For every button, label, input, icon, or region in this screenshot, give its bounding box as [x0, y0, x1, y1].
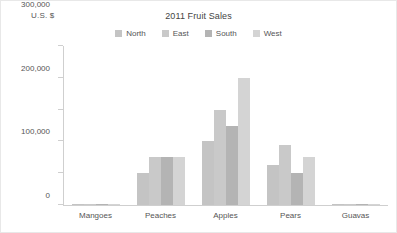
- legend-label: South: [216, 29, 237, 38]
- y-axis-tick: 400,000: [58, 77, 63, 78]
- legend-swatch-icon: [253, 30, 260, 37]
- bar[interactable]: [202, 141, 214, 205]
- bar[interactable]: [303, 157, 315, 205]
- bar[interactable]: [368, 204, 380, 205]
- y-axis-tick-label: 200,000: [21, 63, 50, 72]
- x-axis-tick-label: Apples: [213, 211, 237, 220]
- chart-legend: NorthEastSouthWest: [1, 29, 396, 38]
- bar[interactable]: [72, 204, 84, 205]
- legend-entry[interactable]: North: [115, 29, 146, 38]
- bar[interactable]: [267, 165, 279, 205]
- bar[interactable]: [149, 157, 161, 205]
- bar[interactable]: [173, 157, 185, 205]
- fruit-sales-bar-chart: U.S. $ 2011 Fruit Sales NorthEastSouthWe…: [0, 0, 397, 233]
- bar[interactable]: [238, 78, 250, 205]
- y-axis-tick: 200,000: [58, 140, 63, 141]
- legend-entry[interactable]: South: [205, 29, 237, 38]
- bar-group: Guavas: [332, 204, 380, 205]
- bar[interactable]: [96, 204, 108, 205]
- legend-swatch-icon: [162, 30, 169, 37]
- y-axis-tick-label: 300,000: [21, 0, 50, 9]
- x-axis-tick-label: Peaches: [145, 211, 176, 220]
- legend-swatch-icon: [115, 30, 122, 37]
- legend-entry[interactable]: West: [253, 29, 282, 38]
- y-axis-tick: 100,000: [58, 172, 63, 173]
- y-axis-tick: 300,000: [58, 109, 63, 110]
- plot-area: 0100,000200,000300,000400,000500,000Mang…: [63, 46, 388, 206]
- y-axis-tick-label: 100,000: [21, 127, 50, 136]
- x-axis-tick-label: Guavas: [342, 211, 370, 220]
- bar[interactable]: [161, 157, 173, 205]
- y-axis-tick: 500,000: [58, 45, 63, 46]
- y-axis-tick-label: 0: [46, 191, 50, 200]
- x-axis-tick-label: Mangoes: [79, 211, 112, 220]
- y-axis-line: [63, 46, 64, 206]
- legend-label: North: [126, 29, 146, 38]
- bar-group: Peaches: [137, 157, 185, 205]
- legend-label: West: [264, 29, 282, 38]
- x-axis-tick-label: Pears: [280, 211, 301, 220]
- bar[interactable]: [356, 204, 368, 205]
- bar[interactable]: [214, 110, 226, 205]
- bar[interactable]: [226, 126, 238, 206]
- bar[interactable]: [332, 204, 344, 205]
- bar[interactable]: [291, 173, 303, 205]
- bar-group: Mangoes: [72, 204, 120, 205]
- bar[interactable]: [137, 173, 149, 205]
- y-axis-tick: 0: [58, 204, 63, 205]
- legend-entry[interactable]: East: [162, 29, 189, 38]
- bar-group: Pears: [267, 145, 315, 205]
- x-axis-line: [63, 205, 388, 206]
- bar-group: Apples: [202, 78, 250, 205]
- bar[interactable]: [279, 145, 291, 205]
- bar[interactable]: [108, 204, 120, 205]
- legend-label: East: [173, 29, 189, 38]
- bar[interactable]: [344, 204, 356, 205]
- chart-title: 2011 Fruit Sales: [1, 11, 396, 21]
- legend-swatch-icon: [205, 30, 212, 37]
- bar[interactable]: [84, 204, 96, 205]
